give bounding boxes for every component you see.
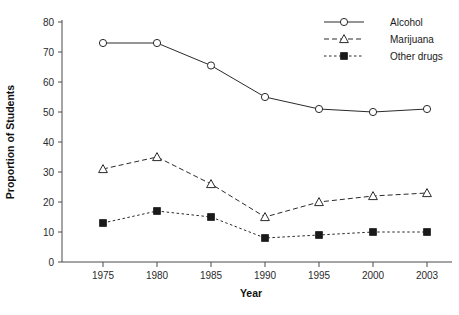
x-axis-tick-label: 1985 [200,270,223,281]
data-series [99,153,432,221]
y-axis-tick-label: 0 [48,257,54,268]
data-series-group [99,39,432,241]
legend-marker [340,18,347,25]
x-axis-tick-label: 1990 [254,270,277,281]
y-axis-tick-label: 10 [43,227,55,238]
y-axis-title: Proportion of Students [4,85,16,199]
data-point [315,198,324,206]
data-point [208,214,215,221]
x-axis-tick-label: 1975 [92,270,115,281]
data-point [100,220,107,227]
chart-legend: AlcoholMarijuanaOther drugs [324,17,443,62]
y-axis-tick-label: 70 [43,47,55,58]
legend-label: Alcohol [390,17,423,28]
x-axis-title: Year [240,287,262,299]
data-point [154,208,161,215]
y-axis-tick-label: 40 [43,137,55,148]
x-axis: 1975198019851990199520002003 [62,262,452,281]
legend-item[interactable]: Alcohol [324,17,423,28]
y-axis: 01020304050607080 [43,17,62,268]
series-line [103,43,427,112]
data-point [423,105,430,112]
data-point [315,105,322,112]
data-point [261,93,268,100]
legend-label: Marijuana [390,34,434,45]
chart-canvas: 01020304050607080 1975198019851990199520… [0,0,459,315]
legend-marker [341,53,348,60]
x-axis-tick-label: 1995 [308,270,331,281]
legend-item[interactable]: Other drugs [324,51,443,62]
data-point [369,108,376,115]
data-point [207,180,216,188]
data-point [153,153,162,161]
data-point [262,235,269,242]
data-point [423,189,432,197]
data-point [153,39,160,46]
legend-item[interactable]: Marijuana [324,34,434,45]
legend-label: Other drugs [390,51,443,62]
data-point [370,229,377,236]
x-axis-tick-label: 2000 [362,270,385,281]
y-axis-tick-label: 80 [43,17,55,28]
y-axis-tick-label: 30 [43,167,55,178]
data-point [316,232,323,239]
x-axis-tick-label: 2003 [416,270,439,281]
y-axis-tick-label: 60 [43,77,55,88]
line-chart: 01020304050607080 1975198019851990199520… [0,0,459,315]
data-point [261,213,270,221]
series-line [103,157,427,217]
y-axis-tick-label: 50 [43,107,55,118]
x-axis-tick-label: 1980 [146,270,169,281]
data-point [207,62,214,69]
data-series [99,39,430,115]
data-point [99,39,106,46]
y-axis-tick-label: 20 [43,197,55,208]
data-point [424,229,431,236]
